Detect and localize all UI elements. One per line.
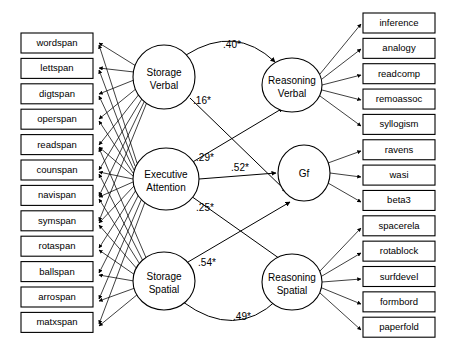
observed-variable-digtspan[interactable]: digtspan xyxy=(21,84,93,104)
loading-arrow xyxy=(322,253,361,276)
observed-label-readspan: readspan xyxy=(37,139,77,150)
observed-variable-wasi[interactable]: wasi xyxy=(363,165,435,185)
observed-variable-inference[interactable]: inference xyxy=(363,13,435,33)
coefficient-executive-attention-to-reasoning-verbal: .29* xyxy=(196,152,214,163)
observed-variable-readspan[interactable]: readspan xyxy=(21,135,93,155)
loading-arrow xyxy=(99,93,140,145)
observed-label-digtspan: digtspan xyxy=(39,88,75,99)
loading-arrow xyxy=(99,68,134,72)
observed-label-beta3: beta3 xyxy=(387,194,411,205)
observed-variable-formbord[interactable]: formbord xyxy=(363,292,435,312)
observed-label-syllogism: syllogism xyxy=(379,118,418,129)
coefficient-storage-verbal-to-gf: .16* xyxy=(193,95,211,106)
observed-variable-spacerela[interactable]: spacerela xyxy=(363,216,435,236)
observed-variable-rotaspan[interactable]: rotaspan xyxy=(21,236,93,256)
path-executive-attention-to-gf xyxy=(199,173,276,179)
observed-label-lettspan: lettspan xyxy=(40,62,73,73)
loading-arrow xyxy=(320,24,361,74)
latent-variable-reasoning-verbal[interactable]: ReasoningVerbal xyxy=(262,58,322,112)
coefficient-executive-attention-to-reasoning-spatial: .25* xyxy=(196,202,214,213)
coefficient-labels: .40*.16*.29*.52*.25*.54*.49* xyxy=(193,39,251,322)
observed-variable-surfdevel[interactable]: surfdevel xyxy=(363,267,435,287)
observed-label-readcomp: readcomp xyxy=(378,68,420,79)
latent-variable-storage-verbal[interactable]: StorageVerbal xyxy=(133,45,195,109)
observed-variable-readcomp[interactable]: readcomp xyxy=(363,64,435,84)
observed-label-spacerela: spacerela xyxy=(378,220,420,231)
latent-label-executive-attention-line2: Attention xyxy=(146,182,185,193)
loading-arrow xyxy=(322,90,361,100)
observed-label-matxspan: matxspan xyxy=(36,316,77,327)
latent-variable-storage-spatial[interactable]: StorageSpatial xyxy=(133,252,195,310)
latent-variable-reasoning-spatial[interactable]: ReasoningSpatial xyxy=(262,254,322,310)
observed-label-wordspan: wordspan xyxy=(35,37,77,48)
loading-arrow xyxy=(99,275,134,281)
observed-label-rotablock: rotablock xyxy=(380,245,419,256)
observed-variable-navispan[interactable]: navispan xyxy=(21,185,93,205)
observed-label-arrospan: arrospan xyxy=(38,291,76,302)
observed-label-operspan: operspan xyxy=(37,113,77,124)
coefficient-storage-verbal-to-reasoning-verbal: .40* xyxy=(223,39,241,50)
latent-label-reasoning-spatial-line1: Reasoning xyxy=(268,272,316,283)
loading-arrow xyxy=(99,80,134,94)
observed-variable-analogy[interactable]: analogy xyxy=(363,38,435,58)
latent-label-reasoning-spatial-line2: Spatial xyxy=(277,285,308,296)
observed-variable-symspan[interactable]: symspan xyxy=(21,211,93,231)
observed-label-paperfold: paperfold xyxy=(379,321,419,332)
observed-variable-ravens[interactable]: ravens xyxy=(363,140,435,160)
observed-label-rotaspan: rotaspan xyxy=(39,240,76,251)
observed-label-ballspan: ballspan xyxy=(39,266,74,277)
observed-variable-beta3[interactable]: beta3 xyxy=(363,190,435,210)
observed-variable-rotablock[interactable]: rotablock xyxy=(363,241,435,261)
loading-arrow xyxy=(320,228,361,271)
observed-label-remoassoc: remoassoc xyxy=(376,93,423,104)
latent-label-storage-spatial-line2: Spatial xyxy=(149,284,180,295)
observed-variable-ballspan[interactable]: ballspan xyxy=(21,262,93,282)
latent-variable-shapes: StorageVerbalExecutiveAttentionStorageSp… xyxy=(133,45,330,310)
latent-variable-executive-attention[interactable]: ExecutiveAttention xyxy=(133,148,199,210)
observed-variable-matxspan[interactable]: matxspan xyxy=(21,312,93,332)
observed-variable-operspan[interactable]: operspan xyxy=(21,109,93,129)
latent-label-gf-line1: Gf xyxy=(299,168,310,179)
latent-label-reasoning-verbal-line1: Reasoning xyxy=(268,75,316,86)
observed-variable-remoassoc[interactable]: remoassoc xyxy=(363,89,435,109)
observed-label-symspan: symspan xyxy=(38,215,76,226)
coefficient-storage-spatial-to-reasoning-spatial: .49* xyxy=(233,311,251,322)
loading-arrow xyxy=(322,279,361,282)
coefficient-storage-spatial-to-gf: .54* xyxy=(198,257,216,268)
loading-arrow xyxy=(330,173,361,177)
path-storage-verbal-to-gf xyxy=(190,98,287,192)
coefficient-executive-attention-to-gf: .52* xyxy=(231,162,249,173)
observed-variable-syllogism[interactable]: syllogism xyxy=(363,114,435,134)
observed-variable-boxes: wordspanlettspandigtspanoperspanreadspan… xyxy=(21,13,435,337)
latent-label-storage-spatial-line1: Storage xyxy=(146,271,181,282)
loading-arrow xyxy=(99,190,136,248)
observed-label-formbord: formbord xyxy=(380,296,418,307)
observed-label-wasi: wasi xyxy=(388,169,408,180)
loading-arrow xyxy=(99,288,135,301)
observed-variable-paperfold[interactable]: paperfold xyxy=(363,317,435,337)
loading-arrow xyxy=(322,288,361,304)
latent-label-storage-verbal-line2: Verbal xyxy=(150,80,178,91)
observed-variable-counspan[interactable]: counspan xyxy=(21,160,93,180)
observed-label-inference: inference xyxy=(379,17,418,28)
observed-label-analogy: analogy xyxy=(382,42,416,53)
observed-label-navispan: navispan xyxy=(38,189,76,200)
observed-variable-arrospan[interactable]: arrospan xyxy=(21,287,93,307)
observed-variable-wordspan[interactable]: wordspan xyxy=(21,33,93,53)
sem-path-diagram: wordspanlettspandigtspanoperspanreadspan… xyxy=(0,0,451,358)
observed-variable-lettspan[interactable]: lettspan xyxy=(21,58,93,78)
path-storage-spatial-to-reasoning-spatial xyxy=(183,300,277,321)
loading-arrow xyxy=(99,97,143,170)
latent-label-executive-attention-line1: Executive xyxy=(144,169,188,180)
latent-label-reasoning-verbal-line2: Verbal xyxy=(278,88,306,99)
loading-arrow xyxy=(320,96,361,126)
observed-label-counspan: counspan xyxy=(36,164,77,175)
latent-label-storage-verbal-line1: Storage xyxy=(146,67,181,78)
loading-arrow xyxy=(328,183,361,202)
loading-arrow xyxy=(328,151,361,163)
loading-arrow xyxy=(322,75,361,85)
loading-arrow xyxy=(320,293,361,330)
diagram-canvas: wordspanlettspandigtspanoperspanreadspan… xyxy=(0,0,451,358)
observed-label-ravens: ravens xyxy=(385,144,414,155)
latent-variable-gf[interactable]: Gf xyxy=(278,145,330,201)
